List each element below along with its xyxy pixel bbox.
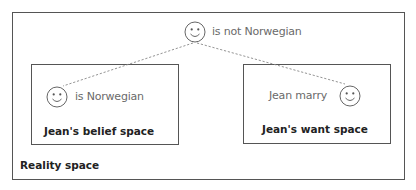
- want-entity-label: Jean marry: [269, 90, 327, 101]
- belief-space-title: Jean's belief space: [44, 126, 154, 137]
- want-space-title: Jean's want space: [262, 124, 368, 135]
- reality-entity-label: is not Norwegian: [212, 26, 302, 37]
- reality-space-title: Reality space: [20, 160, 99, 171]
- belief-entity-label: is Norwegian: [75, 91, 144, 102]
